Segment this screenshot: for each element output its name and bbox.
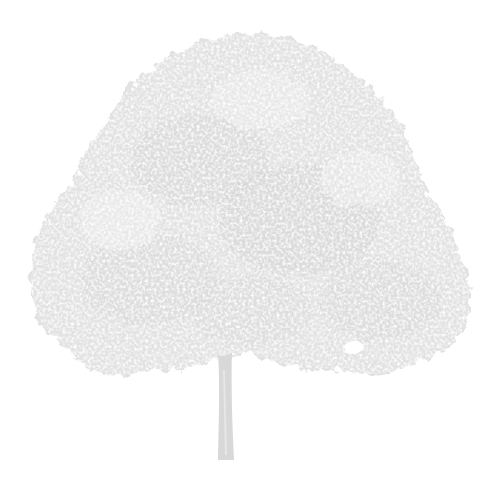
tree-illustration — [0, 0, 503, 484]
tree-trunk — [218, 352, 234, 460]
tree-image — [0, 0, 503, 484]
tree-speckle — [31, 34, 470, 375]
